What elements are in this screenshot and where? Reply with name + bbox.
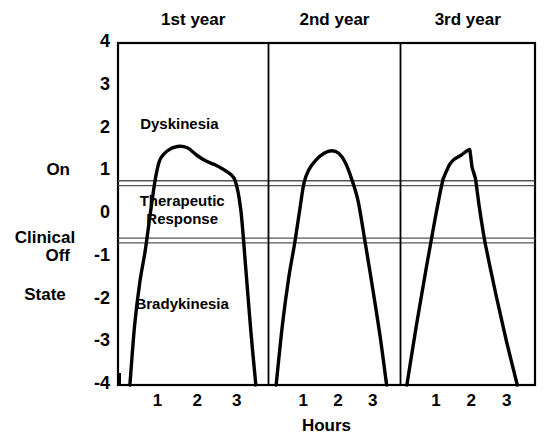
x-tick-label-p2-2: 2 [323, 391, 353, 410]
off-threshold-label: Off [20, 246, 70, 265]
y-tick-label-neg4: -4 [72, 373, 110, 393]
y-tick-label-3: 3 [72, 74, 110, 94]
region-label-bradykinesia: Bradykinesia [112, 296, 252, 313]
x-tick-label-p1-3: 3 [222, 391, 252, 410]
x-tick-label-p3-2: 2 [456, 391, 486, 410]
y-tick-label-neg3: -3 [72, 330, 110, 350]
region-label-line: Therapeutic [112, 192, 252, 210]
x-tick-label-p3-1: 1 [421, 391, 451, 410]
x-tick-label-p2-1: 1 [288, 391, 318, 410]
y-tick-label-2: 2 [72, 117, 110, 137]
region-label-therapeutic-response: TherapeuticResponse [112, 192, 252, 228]
x-tick-label-p3-3: 3 [492, 391, 522, 410]
x-tick-label-p1-1: 1 [143, 391, 173, 410]
x-axis-title: Hours [118, 416, 535, 435]
panel-title-3rd-year: 3rd year [401, 10, 536, 29]
region-label-line: Response [112, 210, 252, 228]
clinical-state-curves [130, 146, 517, 385]
x-tick-label-p2-3: 3 [358, 391, 388, 410]
on-threshold-label: On [20, 160, 70, 179]
y-tick-label-1: 1 [72, 159, 110, 179]
panel-title-2nd-year: 2nd year [269, 10, 401, 29]
x-tick-label-p1-2: 2 [182, 391, 212, 410]
y-tick-label-0: 0 [72, 202, 110, 222]
y-tick-label-neg2: -2 [72, 288, 110, 308]
y-tick-label-4: 4 [72, 31, 110, 51]
y-tick-label-neg1: -1 [72, 245, 110, 265]
region-label-dyskinesia: Dyskinesia [109, 116, 249, 133]
panel-title-1st-year: 1st year [118, 10, 269, 29]
clinical-state-chart: 1st year 2nd year 3rd year Clinical Stat… [0, 0, 546, 443]
